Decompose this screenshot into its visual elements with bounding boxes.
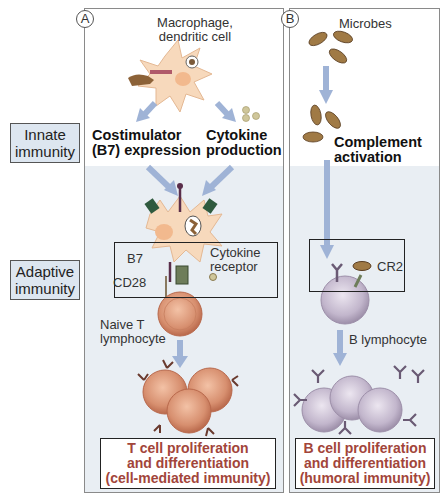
naive-line1: Naive T bbox=[100, 318, 166, 332]
cytokine-receptor-label: Cytokine receptor bbox=[210, 246, 261, 274]
panel-a-badge: A bbox=[76, 10, 94, 28]
b-outcome-line2: and differentiation bbox=[296, 456, 434, 471]
b-outcome-line1: B cell proliferation bbox=[296, 441, 434, 456]
b-outcome-line3: (humoral immunity) bbox=[296, 471, 434, 486]
cytokine-receptor-line2: receptor bbox=[210, 260, 261, 274]
t-outcome-line1: T cell proliferation bbox=[101, 441, 275, 456]
macrophage-icon bbox=[128, 40, 212, 112]
b7-label: B7 bbox=[127, 252, 143, 266]
innate-line2: immunity bbox=[11, 143, 79, 160]
b-cell-outcome-box: B cell proliferation and differentiation… bbox=[295, 438, 435, 489]
proliferating-t-cells-icon bbox=[143, 368, 232, 433]
cytokine-receptor-line1: Cytokine bbox=[210, 246, 261, 260]
innate-line1: Innate bbox=[11, 126, 79, 143]
cytokine-production-label: Cytokine production bbox=[206, 128, 282, 158]
cytokine-production-line2: production bbox=[206, 143, 282, 158]
cytokine-production-line1: Cytokine bbox=[206, 128, 282, 143]
microbes-label: Microbes bbox=[339, 17, 392, 31]
t-outcome-line3: (cell-mediated immunity) bbox=[101, 471, 275, 486]
adaptive-immunity-label: Adaptive immunity bbox=[10, 260, 80, 300]
t-cell-outcome-box: T cell proliferation and differentiation… bbox=[100, 438, 276, 489]
t-outcome-line2: and differentiation bbox=[101, 456, 275, 471]
proliferating-b-cells-icon bbox=[302, 376, 402, 432]
cr2-label: CR2 bbox=[377, 260, 403, 274]
costimulator-line2: (B7) expression bbox=[92, 143, 201, 158]
naive-t-lymphocyte-label: Naive T lymphocyte bbox=[100, 318, 166, 346]
complement-line2: activation bbox=[334, 150, 422, 165]
b-lymphocyte-label: B lymphocyte bbox=[349, 333, 427, 347]
panel-b-badge: B bbox=[281, 10, 299, 28]
costimulator-label: Costimulator (B7) expression bbox=[92, 128, 201, 158]
macrophage-label: Macrophage, dendritic cell bbox=[150, 16, 240, 44]
costimulator-line1: Costimulator bbox=[92, 128, 201, 143]
adaptive-line2: immunity bbox=[11, 280, 79, 297]
macrophage-label-line1: Macrophage, bbox=[150, 16, 240, 30]
cd28-label: CD28 bbox=[113, 276, 146, 290]
complement-line1: Complement bbox=[334, 135, 422, 150]
naive-line2: lymphocyte bbox=[100, 332, 166, 346]
complement-activation-label: Complement activation bbox=[334, 135, 422, 165]
cytokine-icon bbox=[243, 107, 260, 122]
innate-immunity-label: Innate immunity bbox=[10, 123, 80, 163]
adaptive-line1: Adaptive bbox=[11, 263, 79, 280]
macrophage-label-line2: dendritic cell bbox=[150, 30, 240, 44]
